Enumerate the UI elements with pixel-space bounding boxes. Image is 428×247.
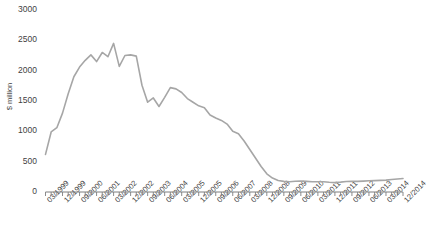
caption-strip: [4, 239, 214, 247]
data-series-line: [46, 43, 404, 182]
axis-group: [46, 192, 404, 196]
